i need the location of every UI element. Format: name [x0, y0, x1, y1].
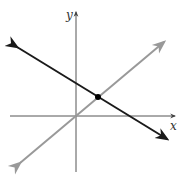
- decreasing-line: [17, 47, 167, 139]
- y-axis-label: y: [65, 8, 73, 22]
- coordinate-plane: y x: [0, 0, 184, 176]
- intersection-point: [95, 94, 101, 100]
- increasing-line: [20, 42, 164, 163]
- x-axis-label: x: [170, 119, 177, 133]
